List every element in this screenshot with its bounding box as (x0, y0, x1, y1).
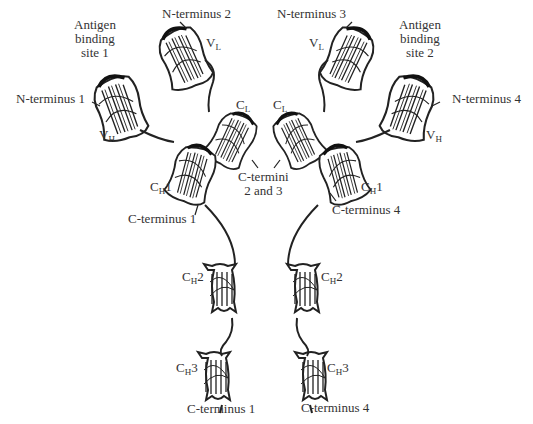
ch2-right-label: CH2 (321, 270, 343, 284)
domain-sub: H (108, 134, 115, 144)
domain-base: C (236, 97, 245, 112)
domain-base: V (426, 127, 435, 142)
domain-suffix: 3 (191, 360, 198, 375)
domain-suffix: 1 (165, 179, 172, 194)
domain-suffix: 1 (376, 179, 383, 194)
domain-sub: H (435, 134, 442, 144)
antibody-ribbon-drawing (0, 0, 533, 424)
c-termini-2-3-label: C-termini 2 and 3 (238, 170, 289, 198)
label-line: C-termini (238, 170, 289, 184)
c-terminus-1-lower-label: C-terminus 1 (187, 402, 255, 416)
domain-suffix: 2 (197, 269, 204, 284)
n-terminus-2-label: N-terminus 2 (162, 7, 231, 21)
ch1-right-label: CH1 (361, 180, 383, 194)
ch1-left-label: CH1 (150, 180, 172, 194)
domain-sub: L (282, 104, 288, 114)
domain-base: C (182, 269, 191, 284)
domain-sub: L (215, 42, 221, 52)
antigen-binding-site-1-label: Antigen binding site 1 (74, 18, 116, 60)
domain-base: C (273, 97, 282, 112)
domain-base: C (327, 360, 336, 375)
antibody-diagram: Antigen binding site 1 Antigen binding s… (0, 0, 533, 424)
vl-left-label: VL (206, 36, 221, 50)
n-terminus-1-label: N-terminus 1 (16, 92, 85, 106)
domain-base: C (361, 179, 370, 194)
label-line: site 2 (399, 46, 441, 60)
domain-sub: L (245, 104, 251, 114)
domain-base: V (99, 127, 108, 142)
cl-right-label: CL (273, 98, 287, 112)
label-line: Antigen (74, 18, 116, 32)
ch3-right-label: CH3 (327, 361, 349, 375)
vh-left-label: VH (99, 128, 115, 142)
domain-suffix: 2 (336, 269, 343, 284)
n-terminus-3-label: N-terminus 3 (277, 7, 346, 21)
label-line: Antigen (399, 18, 441, 32)
domain-base: C (321, 269, 330, 284)
cl-left-label: CL (236, 98, 250, 112)
n-terminus-4-label: N-terminus 4 (452, 92, 521, 106)
label-line: binding (399, 32, 441, 46)
domain-suffix: 3 (342, 360, 349, 375)
domain-sub: L (318, 42, 324, 52)
domain-base: V (309, 35, 318, 50)
label-line: site 1 (74, 46, 116, 60)
label-line: binding (74, 32, 116, 46)
ch3-left-label: CH3 (176, 361, 198, 375)
c-terminus-4-upper-label: C-terminus 4 (332, 203, 400, 217)
domain-base: C (150, 179, 159, 194)
antigen-binding-site-2-label: Antigen binding site 2 (399, 18, 441, 60)
c-terminus-1-upper-label: C-terminus 1 (128, 212, 196, 226)
domain-base: V (206, 35, 215, 50)
ch2-left-label: CH2 (182, 270, 204, 284)
vl-right-label: VL (309, 36, 324, 50)
label-line: 2 and 3 (238, 184, 289, 198)
domain-base: C (176, 360, 185, 375)
vh-right-label: VH (426, 128, 442, 142)
c-terminus-4-lower-label: C-terminus 4 (301, 401, 369, 415)
